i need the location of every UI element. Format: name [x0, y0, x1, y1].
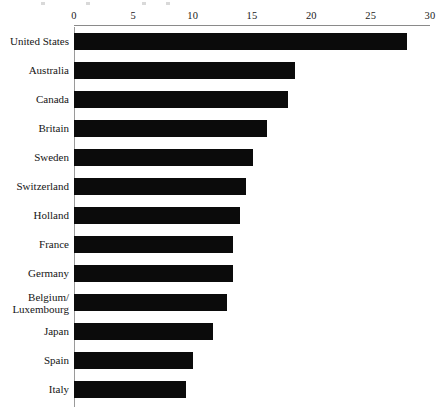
bar: [74, 207, 240, 224]
x-axis-tick-15: 15: [247, 10, 258, 22]
bar-row: Canada: [0, 85, 437, 114]
bar: [74, 265, 233, 282]
bar-track: [74, 230, 430, 259]
bar-row: United States: [0, 27, 437, 56]
bar-track: [74, 375, 430, 404]
bar: [74, 381, 186, 398]
x-axis-tick-10: 10: [187, 10, 198, 22]
bar: [74, 33, 407, 50]
bar-track: [74, 317, 430, 346]
top-crop-artifact: [0, 0, 437, 8]
bar: [74, 178, 246, 195]
x-axis-tick-20: 20: [306, 10, 317, 22]
category-label: Italy: [0, 375, 69, 404]
category-label: United States: [0, 27, 69, 56]
bar: [74, 120, 267, 137]
bar-row: Germany: [0, 259, 437, 288]
bar-chart: 051015202530 United StatesAustraliaCanad…: [0, 0, 437, 419]
bar-row: Italy: [0, 375, 437, 404]
bar-row: Japan: [0, 317, 437, 346]
bar-row: Spain: [0, 346, 437, 375]
category-label: Holland: [0, 201, 69, 230]
bar-track: [74, 114, 430, 143]
x-axis-tick-30: 30: [425, 10, 436, 22]
bar-track: [74, 143, 430, 172]
bar-track: [74, 172, 430, 201]
bar-track: [74, 346, 430, 375]
bar: [74, 236, 233, 253]
x-axis-line: [74, 25, 430, 26]
bar-track: [74, 201, 430, 230]
category-label: Britain: [0, 114, 69, 143]
category-label: Canada: [0, 85, 69, 114]
x-axis-tick-5: 5: [131, 10, 136, 22]
x-axis-tick-25: 25: [365, 10, 376, 22]
bar-row: Switzerland: [0, 172, 437, 201]
bar-row: Australia: [0, 56, 437, 85]
bar-track: [74, 85, 430, 114]
bar: [74, 149, 253, 166]
bar-row: France: [0, 230, 437, 259]
category-label: Japan: [0, 317, 69, 346]
bar-row: Britain: [0, 114, 437, 143]
category-label: Spain: [0, 346, 69, 375]
bar: [74, 91, 288, 108]
bar-track: [74, 259, 430, 288]
bar: [74, 62, 295, 79]
bar: [74, 323, 213, 340]
category-label: Germany: [0, 259, 69, 288]
x-axis-tick-0: 0: [71, 10, 76, 22]
bar: [74, 352, 193, 369]
bar-track: [74, 27, 430, 56]
category-label: Sweden: [0, 143, 69, 172]
category-label: France: [0, 230, 69, 259]
bar-rows: United StatesAustraliaCanadaBritainSwede…: [0, 27, 437, 409]
bar-row: Belgium/ Luxembourg: [0, 288, 437, 317]
bar-row: Sweden: [0, 143, 437, 172]
bar-track: [74, 56, 430, 85]
bar-track: [74, 288, 430, 317]
bar-row: Holland: [0, 201, 437, 230]
category-label: Belgium/ Luxembourg: [0, 288, 69, 317]
category-label: Switzerland: [0, 172, 69, 201]
bar: [74, 294, 227, 311]
category-label: Australia: [0, 56, 69, 85]
